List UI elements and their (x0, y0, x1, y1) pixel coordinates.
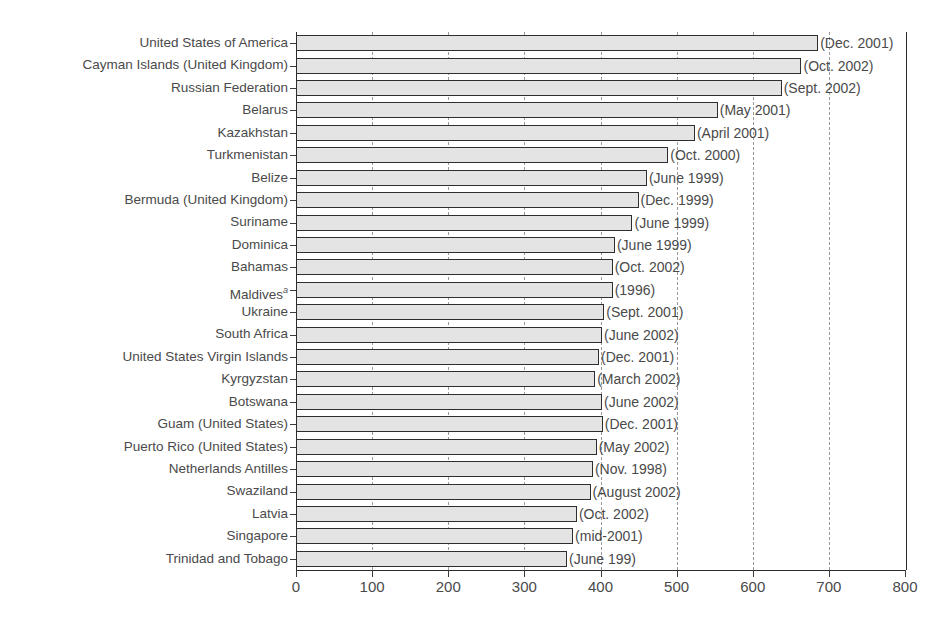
bar[interactable] (296, 215, 632, 231)
category-label: Latvia (0, 503, 288, 525)
bar[interactable] (296, 506, 577, 522)
bar-row: Cayman Islands (United Kingdom)(Oct. 200… (0, 54, 945, 76)
category-label: Bahamas (0, 256, 288, 278)
bar-row: Trinidad and Tobago(June 199) (0, 548, 945, 570)
category-label: Trinidad and Tobago (0, 548, 288, 570)
x-tick-800 (905, 570, 906, 577)
x-tick-200 (448, 570, 449, 577)
bar-row: Kazakhstan(April 2001) (0, 122, 945, 144)
x-tick-label: 700 (816, 578, 841, 595)
bar[interactable] (296, 327, 602, 343)
category-label: Puerto Rico (United States) (0, 436, 288, 458)
bar[interactable] (296, 461, 593, 477)
bar-annotation: (June 1999) (634, 215, 709, 231)
bar-annotation: (Nov. 1998) (595, 461, 667, 477)
bar-row: Puerto Rico (United States)(May 2002) (0, 436, 945, 458)
x-tick-100 (372, 570, 373, 577)
bar-annotation: (May 2001) (720, 102, 791, 118)
x-tick-label: 0 (292, 578, 300, 595)
bar-row: Botswana(June 2002) (0, 391, 945, 413)
footnote-marker: a (283, 285, 288, 295)
x-tick-label: 600 (740, 578, 765, 595)
category-label: United States of America (0, 32, 288, 54)
bar-row: South Africa(June 2002) (0, 323, 945, 345)
bar[interactable] (296, 170, 647, 186)
bar-row: Suriname(June 1999) (0, 211, 945, 233)
category-label: Belarus (0, 99, 288, 121)
bar-annotation: (April 2001) (697, 125, 769, 141)
bar[interactable] (296, 237, 615, 253)
x-tick-700 (829, 570, 830, 577)
bar[interactable] (296, 528, 573, 544)
bar[interactable] (296, 35, 818, 51)
bar-row: Russian Federation(Sept. 2002) (0, 77, 945, 99)
bar-row: Latvia(Oct. 2002) (0, 503, 945, 525)
category-label: Dominica (0, 234, 288, 256)
bar-row: Ukraine(Sept. 2001) (0, 301, 945, 323)
bar-row: Belize(June 1999) (0, 167, 945, 189)
bar[interactable] (296, 282, 613, 298)
bar-row: Maldivesa(1996) (0, 279, 945, 301)
bar-annotation: (mid-2001) (575, 528, 643, 544)
bar[interactable] (296, 416, 603, 432)
bar-row: Bahamas(Oct. 2002) (0, 256, 945, 278)
x-tick-label: 300 (512, 578, 537, 595)
x-tick-label: 500 (664, 578, 689, 595)
x-tick-0 (296, 570, 297, 577)
bar-row: Bermuda (United Kingdom)(Dec. 1999) (0, 189, 945, 211)
bar-annotation: (1996) (615, 282, 655, 298)
bar-annotation: (May 2002) (599, 439, 670, 455)
category-label: Guam (United States) (0, 413, 288, 435)
bar-annotation: (Oct. 2002) (615, 259, 685, 275)
bar-annotation: (June 1999) (649, 170, 724, 186)
bar-annotation: (June 1999) (617, 237, 692, 253)
category-label: Botswana (0, 391, 288, 413)
category-label: Ukraine (0, 301, 288, 323)
bar[interactable] (296, 304, 604, 320)
category-label: Netherlands Antilles (0, 458, 288, 480)
x-tick-label: 100 (360, 578, 385, 595)
bar[interactable] (296, 147, 668, 163)
category-label: Swaziland (0, 480, 288, 502)
category-label: Kyrgyzstan (0, 368, 288, 390)
bar[interactable] (296, 102, 718, 118)
category-label: Russian Federation (0, 77, 288, 99)
bar[interactable] (296, 394, 602, 410)
bar[interactable] (296, 192, 639, 208)
bar[interactable] (296, 439, 597, 455)
category-label: United States Virgin Islands (0, 346, 288, 368)
bar-annotation: (June 2002) (604, 327, 679, 343)
bar-annotation: (Oct. 2000) (670, 147, 740, 163)
bar[interactable] (296, 484, 591, 500)
bar-row: Kyrgyzstan(March 2002) (0, 368, 945, 390)
category-label: Belize (0, 167, 288, 189)
bar-annotation: (Dec. 2001) (601, 349, 674, 365)
bar-annotation: (June 199) (569, 551, 636, 567)
x-tick-500 (677, 570, 678, 577)
bar-annotation: (June 2002) (604, 394, 679, 410)
bar[interactable] (296, 259, 613, 275)
bar-annotation: (Dec. 2001) (605, 416, 678, 432)
bar-annotation: (Sept. 2002) (784, 80, 861, 96)
bar-annotation: (March 2002) (597, 371, 680, 387)
x-tick-label: 800 (892, 578, 917, 595)
bar-row: Dominica(June 1999) (0, 234, 945, 256)
bar[interactable] (296, 349, 599, 365)
x-tick-600 (753, 570, 754, 577)
bar[interactable] (296, 80, 782, 96)
category-label: Suriname (0, 211, 288, 233)
bar-row: Netherlands Antilles(Nov. 1998) (0, 458, 945, 480)
bar[interactable] (296, 58, 801, 74)
bar-annotation: (Dec. 2001) (820, 35, 893, 51)
chart-figure: 0100200300400500600700800 United States … (0, 0, 945, 639)
category-label: Kazakhstan (0, 122, 288, 144)
bar-annotation: (Dec. 1999) (641, 192, 714, 208)
bar[interactable] (296, 125, 695, 141)
bar-row: Turkmenistan(Oct. 2000) (0, 144, 945, 166)
bar[interactable] (296, 371, 595, 387)
category-label: Bermuda (United Kingdom) (0, 189, 288, 211)
bar-annotation: (August 2002) (593, 484, 681, 500)
x-tick-400 (601, 570, 602, 577)
bar[interactable] (296, 551, 567, 567)
category-label: South Africa (0, 323, 288, 345)
